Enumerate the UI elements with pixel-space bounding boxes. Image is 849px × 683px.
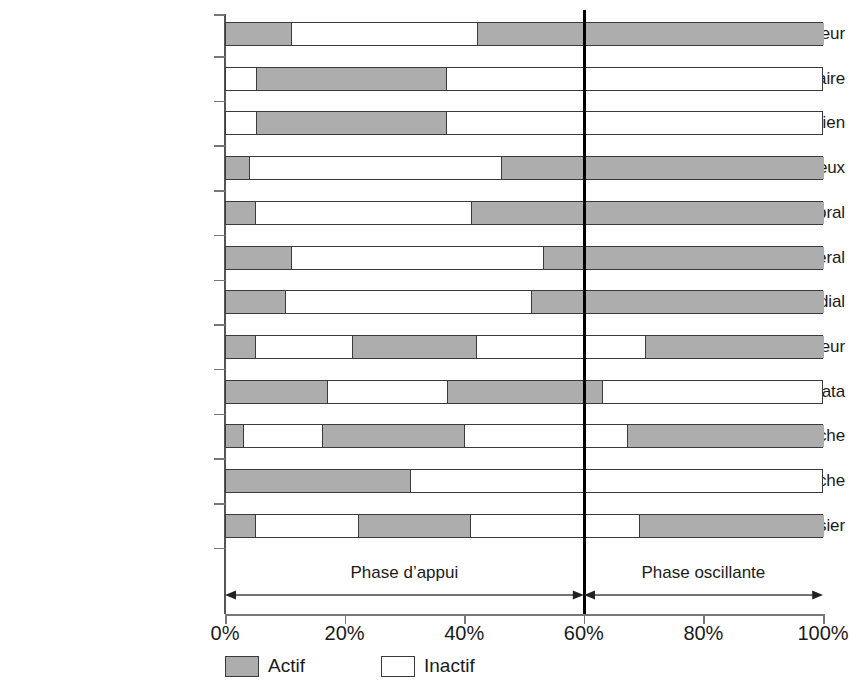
bar-track [225,201,823,225]
y-axis-tick [214,369,225,371]
legend-item[interactable]: Actif [225,655,305,677]
bar-segment-active [352,336,478,358]
bar-segment-active [226,247,292,269]
y-axis-tick [214,548,225,550]
phase-range-arrow [584,588,823,602]
bar-segment-active [531,291,824,313]
bar-segment-active [501,157,824,179]
bar-segment-active [226,381,328,403]
bar-track [225,22,823,46]
phase-label: Phase d’appui [351,563,459,583]
bar-row[interactable] [0,201,845,225]
bar-row[interactable] [0,424,845,448]
bar-segment-active [226,23,292,45]
bar-row[interactable] [0,514,845,538]
bar-segment-active [226,470,411,492]
y-axis-tick [214,503,225,505]
x-axis-tick-label: 40% [444,622,484,645]
bar-row[interactable] [0,111,845,135]
bar-segment-active [226,157,250,179]
bar-row[interactable] [0,246,845,270]
bar-row[interactable] [0,290,845,314]
bar-track [225,469,823,493]
x-axis-tick-label: 80% [683,622,723,645]
bar-row[interactable] [0,380,845,404]
bar-segment-active [256,68,447,90]
legend-swatch-active [225,656,259,677]
bar-segment-active [226,202,256,224]
bar-segment-active [226,515,256,537]
bar-track [225,514,823,538]
legend-label: Actif [268,655,305,677]
bar-track [225,67,823,91]
y-axis-tick [214,324,225,326]
x-axis-tick-label: 20% [325,622,365,645]
bar-track [225,335,823,359]
bar-track [225,246,823,270]
y-axis-tick [214,280,225,282]
bar-row[interactable] [0,67,845,91]
bar-track [225,111,823,135]
phase-label: Phase oscillante [641,563,765,583]
bar-segment-active [627,425,824,447]
bar-segment-active [226,425,244,447]
bar-track [225,424,823,448]
bar-segment-active [256,112,447,134]
bar-row[interactable] [0,335,845,359]
y-axis-tick [214,56,225,58]
y-axis-tick [214,458,225,460]
bar-segment-active [447,381,602,403]
bar-segment-active [645,336,824,358]
y-axis-tick [214,190,225,192]
legend-label: Inactif [424,655,475,677]
y-axis-tick [214,235,225,237]
bar-track [225,380,823,404]
bar-track [225,156,823,180]
bar-segment-active [639,515,824,537]
bar-segment-active [471,202,824,224]
bar-row[interactable] [0,469,845,493]
x-axis-tick-label: 60% [564,622,604,645]
y-axis-tick [214,145,225,147]
bar-segment-active [226,291,286,313]
legend-swatch-inactive [381,656,415,677]
bar-row[interactable] [0,22,845,46]
legend-item[interactable]: Inactif [381,655,475,677]
y-axis-tick [214,14,225,16]
bar-track [225,290,823,314]
bar-segment-active [358,515,472,537]
bar-row[interactable] [0,156,845,180]
toe-off-marker-line [583,10,586,615]
y-axis-tick [214,101,225,103]
phase-range-arrow [225,588,584,602]
bar-segment-active [477,23,824,45]
x-axis-tick-label: 100% [797,622,848,645]
bar-segment-active [322,425,466,447]
x-axis-tick-label: 0% [211,622,240,645]
bar-segment-active [226,336,256,358]
x-axis-line [225,614,823,616]
y-axis-tick [214,414,225,416]
